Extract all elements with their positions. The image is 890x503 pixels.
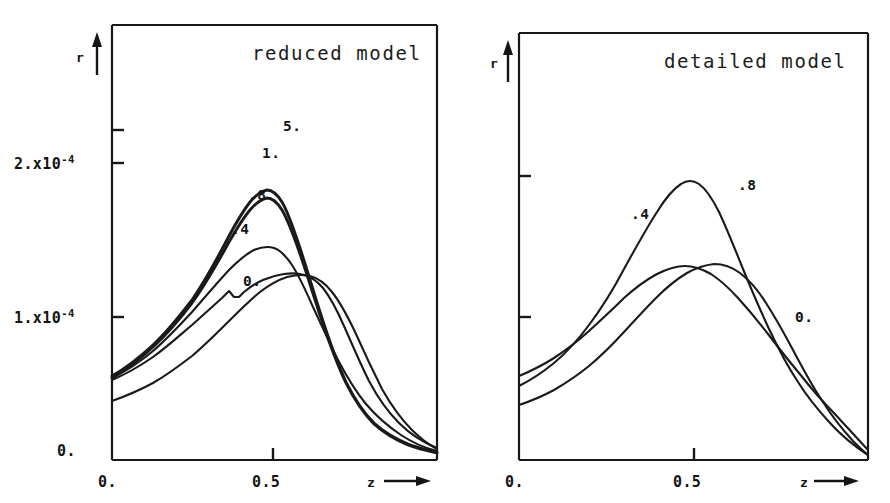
- panel-detailed-x-label-zero: 0.: [505, 473, 524, 491]
- panel-reduced-y-label-zero: 0.: [57, 442, 76, 460]
- curve-detailed-0: [519, 264, 868, 455]
- panel-reduced-model: r 2.x10-4 1.x10-4 0. 0. 0.5 z reduced mo…: [14, 25, 437, 491]
- curve-label-reduced-0: 0.: [243, 273, 261, 289]
- figure-root: r 2.x10-4 1.x10-4 0. 0. 0.5 z reduced mo…: [0, 0, 890, 503]
- curve-reduced-5: [112, 190, 437, 452]
- panel-reduced-x-axis-arrow-icon: [384, 476, 431, 486]
- panel-detailed-x-axis-name: z: [800, 475, 808, 490]
- two-panel-line-chart: r 2.x10-4 1.x10-4 0. 0. 0.5 z reduced mo…: [0, 0, 890, 503]
- panel-reduced-y-axis-arrow-icon: [92, 32, 102, 75]
- curve-label-detailed-08: .8: [738, 177, 756, 193]
- curve-label-reduced-5: 5.: [283, 118, 301, 134]
- curve-label-reduced-1: 1.: [262, 145, 280, 161]
- curve-label-reduced-08: .8: [248, 187, 266, 203]
- curve-reduced-08: [112, 247, 437, 451]
- curve-reduced-0: [112, 275, 437, 449]
- panel-detailed-x-label-half: 0.5: [673, 473, 701, 491]
- panel-reduced-title: reduced model: [252, 42, 422, 64]
- curve-detailed-04: [519, 266, 868, 450]
- panel-reduced-x-label-half: 0.5: [252, 473, 280, 491]
- panel-detailed-title: detailed model: [664, 50, 847, 72]
- curve-label-detailed-0: 0.: [795, 309, 813, 325]
- panel-detailed-y-axis-arrow-icon: [503, 40, 513, 82]
- panel-detailed-x-axis-arrow-icon: [814, 476, 859, 486]
- curve-label-detailed-04: .4: [631, 206, 649, 222]
- panel-detailed-model: r 0. 0.5 z detailed model .8 .4: [490, 33, 868, 491]
- panel-reduced-y-label-2e-4: 2.x10-4: [14, 153, 75, 173]
- panel-reduced-y-label-1e-4: 1.x10-4: [14, 307, 75, 327]
- panel-reduced-x-axis-name: z: [367, 475, 375, 490]
- panel-detailed-y-axis-name: r: [490, 56, 498, 71]
- curve-reduced-04: [112, 273, 437, 448]
- curve-detailed-08: [519, 181, 868, 455]
- panel-reduced-y-axis-name: r: [76, 50, 84, 65]
- panel-reduced-x-label-zero: 0.: [98, 473, 117, 491]
- curve-label-reduced-04: .4: [231, 221, 249, 237]
- curve-reduced-1: [112, 198, 437, 453]
